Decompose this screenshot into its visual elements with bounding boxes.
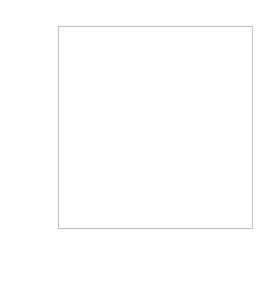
normal-probability-plot: [0, 0, 267, 287]
plot-frame: [59, 27, 253, 229]
plot-canvas: [0, 0, 267, 287]
